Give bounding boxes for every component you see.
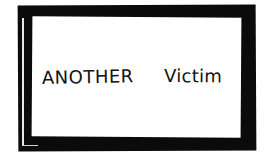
caption-word-victim: Victim	[164, 65, 222, 87]
hand-drawn-card: ANOTHER Victim	[0, 0, 264, 165]
caption-word-another: ANOTHER	[42, 65, 134, 88]
handwritten-caption: ANOTHER Victim	[0, 0, 264, 165]
